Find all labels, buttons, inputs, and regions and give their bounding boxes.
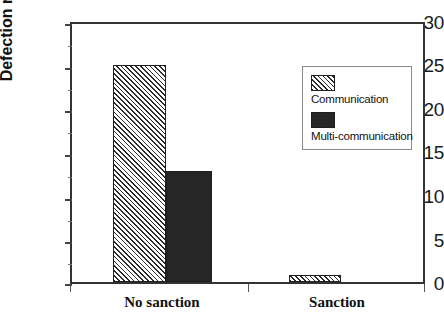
x-tick-label-no-sanction: No sanction xyxy=(92,294,232,311)
y-tick-major-10 xyxy=(65,199,72,201)
bar-no-sanction-multi-communication xyxy=(166,171,212,282)
x-tick-group-divider xyxy=(248,284,249,292)
y-tick-major-15 xyxy=(65,155,72,157)
legend-entry-communication: Communication xyxy=(311,75,388,105)
x-tick-label-sanction: Sanction xyxy=(267,294,407,311)
legend: Communication Multi-communication xyxy=(302,66,412,150)
legend-label-multi-communication: Multi-communication xyxy=(311,130,413,142)
legend-swatch-multi-communication-icon xyxy=(311,112,335,128)
x-tick-left-edge xyxy=(70,284,71,292)
legend-swatch-communication-icon xyxy=(311,75,335,91)
y-tick-minor-17-5 xyxy=(68,133,72,134)
x-tick-right-edge xyxy=(424,284,425,292)
y-tick-major-30 xyxy=(65,24,72,26)
legend-entry-multi-communication: Multi-communication xyxy=(311,112,413,142)
y-tick-major-25 xyxy=(65,68,72,70)
y-tick-minor-22-5 xyxy=(68,90,72,91)
bar-no-sanction-communication xyxy=(113,65,166,282)
legend-label-communication: Communication xyxy=(311,93,388,105)
y-tick-minor-27-5 xyxy=(68,46,72,47)
plot-area: Communication Multi-communication xyxy=(70,22,425,284)
defection-rate-bar-chart: Defection rate 30 25 20 15 10 5 0 Co xyxy=(0,0,444,323)
y-tick-major-20 xyxy=(65,111,72,113)
y-tick-minor-2-5 xyxy=(68,264,72,265)
y-tick-major-5 xyxy=(65,242,72,244)
y-tick-minor-12-5 xyxy=(68,177,72,178)
bar-sanction-communication xyxy=(289,275,341,282)
y-tick-minor-7-5 xyxy=(68,221,72,222)
y-axis-title: Defection rate xyxy=(0,0,16,108)
